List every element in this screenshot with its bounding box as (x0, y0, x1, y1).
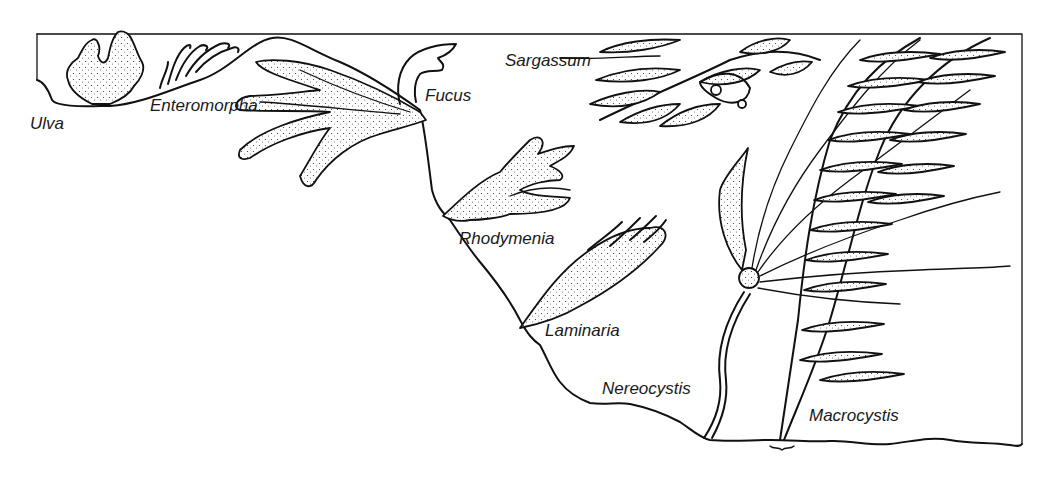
label-ulva: Ulva (30, 115, 64, 132)
macrocystis-fronds (800, 50, 1005, 382)
label-sargassum: Sargassum (505, 52, 591, 69)
label-rhodymenia: Rhodymenia (459, 230, 554, 247)
ulva-illustration (67, 31, 143, 104)
sargassum-illustration (560, 39, 820, 127)
label-laminaria: Laminaria (545, 322, 620, 339)
label-macrocystis: Macrocystis (809, 407, 899, 424)
seaweed-zonation-diagram: Ulva Enteromorpha Fucus Sargassum Rhodym… (0, 0, 1052, 478)
label-enteromorpha: Enteromorpha (150, 97, 258, 114)
rhodymenia-illustration (443, 138, 574, 221)
label-fucus: Fucus (425, 87, 471, 104)
macrocystis-illustration (770, 38, 1005, 450)
label-nereocystis: Nereocystis (602, 380, 691, 397)
